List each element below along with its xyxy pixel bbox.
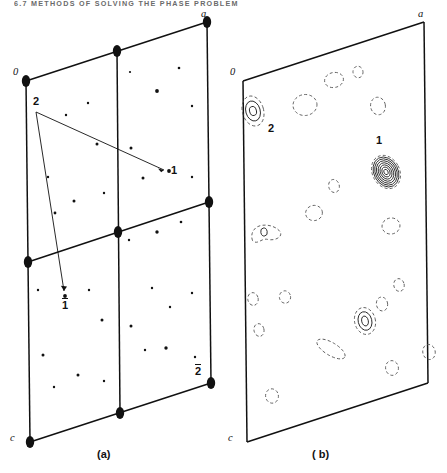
panel-b-group <box>239 22 437 442</box>
panel-a-axis-a-label: a <box>201 8 206 19</box>
panel-b-peak-label-2: 2 <box>268 122 274 134</box>
panel-a-peak-label-1-bar: 1 <box>62 299 68 311</box>
overbar-text: 2 <box>195 365 201 377</box>
panel-a-peak-label-2-bar: 2 <box>195 365 201 377</box>
panel-a-lattice-nodes <box>22 16 215 448</box>
vector-to-peak-1 <box>36 112 164 170</box>
panel-a-origin-label: 0 <box>13 66 18 77</box>
panel-a-peak-label-2: 2 <box>33 95 39 107</box>
panel-a-caption: (a) <box>97 448 110 460</box>
panel-a-vectors <box>36 112 164 291</box>
panel-a-axis-c-label: c <box>10 432 15 443</box>
panel-a-group <box>22 16 215 448</box>
overbar-text: 1 <box>62 299 68 311</box>
vector-to-peak-1bar <box>36 112 64 291</box>
panel-b-caption: ( b) <box>312 448 329 460</box>
panel-a-peak-label-1: 1 <box>171 164 177 176</box>
panel-b-axis-c-label: c <box>228 432 233 443</box>
panel-b-peak-1 <box>366 150 406 193</box>
panel-b-peak-low-right <box>352 305 379 336</box>
panel-b-peak-low-left <box>250 222 282 244</box>
panel-b-peak-label-1: 1 <box>376 134 382 146</box>
figure-svg <box>0 0 447 473</box>
panel-b-weak-contours <box>247 66 437 405</box>
panel-b-axis-a-label: a <box>418 8 423 19</box>
panel-b-cell-outline <box>243 22 428 442</box>
panel-b-origin-label: 0 <box>230 66 235 77</box>
